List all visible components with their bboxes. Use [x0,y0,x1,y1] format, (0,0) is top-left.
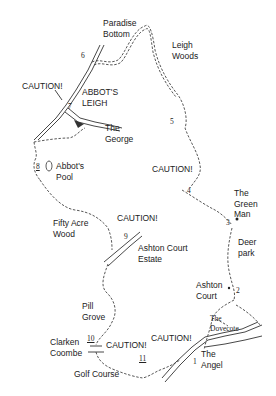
waypoint-number: 10 [87,334,95,343]
label-clarken-coombe: Clarken Coombe [50,337,82,358]
label-the-dovecote: The Dovecote [210,314,239,333]
pub-icon [74,120,84,128]
caution-label: CAUTION! [151,333,192,343]
house-marker-icon [228,287,230,289]
label-deer-park: Deer park [238,237,256,258]
waypoint-number: 4 [187,186,191,195]
label-ashton-court-estate: Ashton Court Estate [138,243,188,264]
waypoint-number: 6 [81,51,85,60]
waypoint-number: 2 [236,286,240,295]
waypoint-number: 1 [193,357,197,366]
label-the-george: The George [105,123,133,144]
road-crossing-10 [88,346,104,352]
label-pill-grove: Pill Grove [82,301,105,322]
caution-label: CAUTION! [106,340,147,350]
pool-icon [46,161,52,171]
waypoint-number: 5 [170,117,174,126]
label-paradise-bottom: Paradise Bottom [103,18,137,39]
label-golf-course: Golf Course [74,369,119,380]
waypoint-number: 9 [124,232,128,241]
waypoint-number: 3 [226,218,230,227]
label-the-green-man: The Green Man [234,188,258,220]
label-abbots-leigh: ABBOT'S LEIGH [82,87,118,108]
label-abbots-pool: Abbot's Pool [56,161,84,182]
waypoint-number: 7 [68,102,72,111]
label-fifty-acre-wood: Fifty Acre Wood [53,218,88,239]
waypoint-number: 8 [36,162,40,171]
label-ashton-court: Ashton Court [196,280,222,301]
label-the-angel: The Angel [201,349,223,370]
caution-label: CAUTION! [22,81,63,91]
label-leigh-woods: Leigh Woods [172,40,198,61]
waypoint-number: 11 [139,354,146,363]
caution-label: CAUTION! [117,213,158,223]
road-crossing-9 [104,232,142,266]
caution-label: CAUTION! [152,164,193,174]
